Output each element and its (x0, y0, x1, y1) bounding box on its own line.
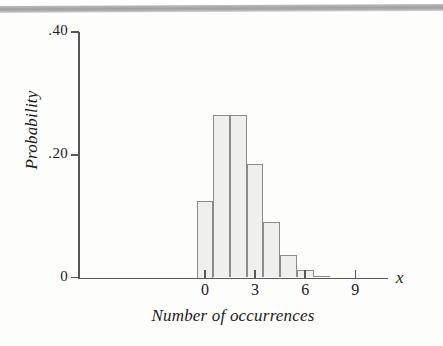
probability-histogram-figure: .40.200 0369 Probability Number of occur… (0, 0, 443, 346)
x-axis-tick (254, 270, 256, 279)
plot-area: .40.200 0369 Probability Number of occur… (0, 0, 443, 346)
x-axis-tick (304, 270, 306, 279)
y-axis-line (78, 32, 80, 279)
histogram-bar (197, 201, 214, 278)
x-axis-line (78, 278, 388, 280)
x-axis-tick-label: 6 (293, 281, 317, 299)
histogram-bar (230, 115, 247, 277)
x-axis-title: Number of occurrences (78, 306, 388, 326)
histogram-bar (280, 255, 297, 277)
y-axis-title: Probability (22, 50, 42, 210)
x-axis-tick (355, 270, 357, 279)
y-axis-tick-label: .40 (48, 22, 68, 39)
y-axis-tick-label: 0 (60, 268, 68, 285)
x-axis-tick-label: 3 (243, 281, 267, 299)
y-axis-tick (71, 277, 79, 279)
histogram-bar (314, 276, 331, 278)
x-axis-tick (204, 270, 206, 279)
y-axis-tick (71, 31, 79, 33)
histogram-bar (247, 164, 264, 278)
histogram-bar (263, 222, 280, 278)
y-axis-tick-label: .20 (48, 145, 68, 162)
x-axis-variable-label: x (396, 268, 404, 288)
x-axis-tick-label: 9 (343, 281, 367, 299)
histogram-bar (213, 115, 230, 277)
y-axis-tick (71, 154, 79, 156)
x-axis-tick-label: 0 (193, 281, 217, 299)
